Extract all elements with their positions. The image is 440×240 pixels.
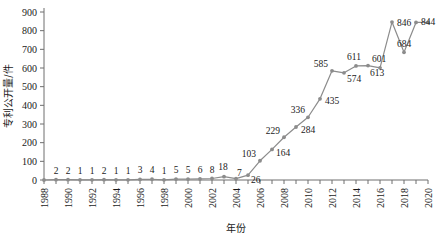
data-point-label: 3 (138, 165, 143, 175)
data-point-label: 164 (276, 148, 291, 158)
data-point-marker (66, 178, 70, 182)
data-point-marker (270, 147, 274, 151)
data-point-label: 1 (126, 166, 131, 176)
data-point-label: 2 (66, 166, 71, 176)
data-point-label: 1 (162, 166, 167, 176)
data-point-label: 103 (242, 149, 257, 159)
x-tick-label: 1998 (159, 188, 170, 208)
data-point-label: 2 (54, 166, 59, 176)
x-tick-label: 2010 (303, 188, 314, 208)
data-point-label: 6 (198, 165, 203, 175)
x-tick-label: 2018 (399, 188, 410, 208)
data-point-marker (282, 135, 286, 139)
data-point-label: 229 (266, 126, 281, 136)
data-point-label: 26 (251, 175, 261, 185)
data-point-marker (354, 64, 358, 68)
data-point-label: 1 (90, 166, 95, 176)
data-point-marker (126, 178, 130, 182)
series-line-patent-disclosure (44, 22, 428, 180)
data-point-label: 1 (114, 166, 119, 176)
y-tick-label: 700 (22, 44, 37, 55)
y-tick-label: 500 (22, 81, 37, 92)
y-tick-label: 400 (22, 100, 37, 111)
y-axis-title: 专利公开量/件 (2, 64, 14, 127)
x-axis-title: 年份 (226, 222, 246, 234)
data-point-marker (258, 159, 262, 163)
data-point-label: 5 (174, 165, 179, 175)
y-tick-label: 200 (22, 137, 37, 148)
data-point-marker (114, 178, 118, 182)
x-tick-label: 1996 (135, 188, 146, 208)
x-tick-label: 1994 (111, 188, 122, 208)
y-tick-label: 0 (32, 175, 37, 186)
data-point-labels: 2211211341556818726103164229284336435585… (54, 17, 436, 185)
x-tick-label: 2000 (183, 188, 194, 208)
y-tick-label: 600 (22, 63, 37, 74)
data-point-label: 684 (397, 39, 412, 49)
x-tick-label: 2020 (423, 188, 434, 208)
data-point-label: 613 (370, 68, 385, 78)
x-tick-label: 1988 (39, 188, 50, 208)
chart-canvas: 0100200300400500600700800900 19881990199… (0, 0, 440, 240)
data-point-marker (138, 178, 142, 182)
data-point-label: 435 (325, 96, 340, 106)
data-point-marker (186, 177, 190, 181)
data-point-label: 4 (150, 165, 155, 175)
data-series (44, 22, 428, 180)
data-point-label: 5 (186, 165, 191, 175)
data-point-label: 574 (347, 74, 362, 84)
data-point-marker (294, 125, 298, 129)
data-point-marker (246, 173, 250, 177)
data-point-marker (342, 71, 346, 75)
data-point-label: 2 (102, 166, 107, 176)
data-point-label: 7 (237, 168, 242, 178)
data-point-label: 8 (210, 165, 215, 175)
data-point-label: 284 (301, 125, 316, 135)
data-point-label: 18 (218, 162, 228, 172)
x-tick-label: 2012 (327, 188, 338, 208)
x-tick-label: 1990 (63, 188, 74, 208)
data-point-marker (306, 115, 310, 119)
x-tick-label: 1992 (87, 188, 98, 208)
data-point-markers (42, 20, 430, 182)
y-tick-label: 300 (22, 119, 37, 130)
patent-disclosure-line-chart: 0100200300400500600700800900 19881990199… (0, 0, 440, 240)
x-tick-label: 2004 (231, 188, 242, 208)
data-point-label: 611 (347, 52, 361, 62)
data-point-label: 601 (372, 54, 387, 64)
data-point-marker (222, 175, 226, 179)
x-tick-label: 2008 (279, 188, 290, 208)
data-point-marker (198, 177, 202, 181)
x-axis: 1988199019921994199619982000200220042006… (39, 180, 434, 208)
data-point-marker (402, 50, 406, 54)
y-axis: 0100200300400500600700800900 (22, 7, 44, 186)
data-point-marker (390, 20, 394, 24)
x-tick-label: 2002 (207, 188, 218, 208)
x-tick-label: 2014 (351, 188, 362, 208)
data-point-label: 844 (421, 17, 436, 27)
data-point-label: 846 (397, 18, 412, 28)
data-point-marker (330, 69, 334, 73)
data-point-marker (210, 177, 214, 181)
data-point-marker (174, 177, 178, 181)
data-point-marker (162, 178, 166, 182)
data-point-marker (318, 97, 322, 101)
data-point-marker (102, 178, 106, 182)
x-tick-label: 2016 (375, 188, 386, 208)
data-point-marker (78, 178, 82, 182)
x-tick-label: 2006 (255, 188, 266, 208)
data-point-marker (54, 178, 58, 182)
y-tick-label: 800 (22, 25, 37, 36)
data-point-label: 585 (314, 59, 329, 69)
data-point-label: 1 (78, 166, 83, 176)
data-point-marker (150, 177, 154, 181)
y-tick-label: 900 (22, 7, 37, 18)
y-tick-label: 100 (22, 156, 37, 167)
data-point-label: 336 (291, 105, 306, 115)
data-point-marker (414, 21, 418, 25)
data-point-marker (90, 178, 94, 182)
data-point-marker (42, 178, 46, 182)
